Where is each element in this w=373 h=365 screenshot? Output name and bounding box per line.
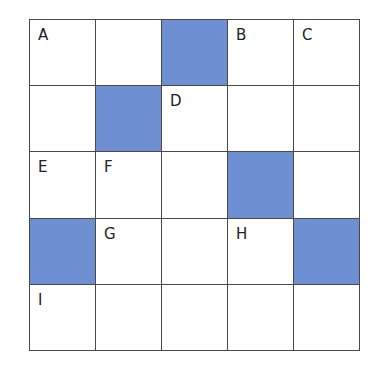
grid-cell [162, 152, 228, 218]
grid-cell [96, 20, 162, 86]
grid-cell: B [228, 20, 294, 86]
grid-cell [162, 285, 228, 351]
cell-label: H [236, 225, 247, 243]
grid-cell [228, 86, 294, 152]
grid-cell: C [294, 20, 360, 86]
cell-label: D [170, 92, 182, 110]
cell-label: F [104, 158, 113, 176]
cell-label: G [104, 225, 116, 243]
grid-cell: E [30, 152, 96, 218]
grid-cell: F [96, 152, 162, 218]
cell-label: C [302, 26, 312, 44]
shaded-cell [294, 219, 360, 285]
grid-cell: D [162, 86, 228, 152]
grid-cell [294, 285, 360, 351]
grid-cell [96, 285, 162, 351]
cell-label: A [38, 26, 48, 44]
grid-cell [294, 152, 360, 218]
cell-label: B [236, 26, 246, 44]
shaded-cell [96, 86, 162, 152]
grid-cell [30, 86, 96, 152]
grid-cell: I [30, 285, 96, 351]
cell-label: E [38, 158, 47, 176]
grid-cell: A [30, 20, 96, 86]
grid-cell: H [228, 219, 294, 285]
grid-cell [162, 219, 228, 285]
cell-label: I [38, 291, 42, 309]
shaded-cell [228, 152, 294, 218]
shaded-cell [162, 20, 228, 86]
letter-grid: ABCDEFGHI [29, 19, 360, 351]
grid-cell [294, 86, 360, 152]
grid-cell [228, 285, 294, 351]
grid-cell: G [96, 219, 162, 285]
shaded-cell [30, 219, 96, 285]
